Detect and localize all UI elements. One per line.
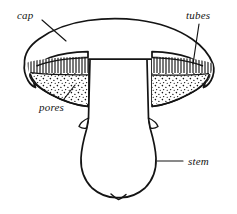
stem-outline <box>81 60 156 198</box>
mushroom-drawing <box>0 0 237 214</box>
mushroom-anatomy-figure: cap tubes pores stem <box>0 0 237 214</box>
label-cap: cap <box>17 9 33 21</box>
label-pores: pores <box>39 101 64 113</box>
label-stem: stem <box>188 155 209 167</box>
label-tubes: tubes <box>186 9 210 21</box>
